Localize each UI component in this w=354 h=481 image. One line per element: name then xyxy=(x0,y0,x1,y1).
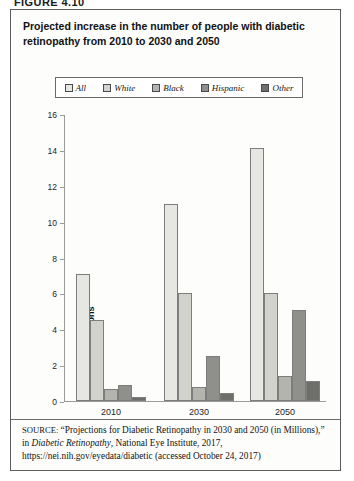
bar-group-2010 xyxy=(76,114,146,401)
y-axis-tick xyxy=(60,115,64,116)
chart-legend: AllWhiteBlackHispanicOther xyxy=(55,77,303,98)
y-axis-tick xyxy=(60,259,64,260)
y-axis-tick xyxy=(60,330,64,331)
bar-all-2050[interactable] xyxy=(250,148,264,401)
legend-item-other[interactable]: Other xyxy=(261,83,293,93)
source-publication-title: Diabetic Retinopathy xyxy=(32,438,111,448)
bar-all-2030[interactable] xyxy=(164,204,178,401)
source-note: SOURCE: “Projections for Diabetic Retino… xyxy=(22,424,329,464)
y-axis-tick-label: 12 xyxy=(48,182,57,192)
legend-item-all[interactable]: All xyxy=(65,83,87,93)
bar-white-2010[interactable] xyxy=(90,320,104,401)
bar-black-2010[interactable] xyxy=(104,389,118,401)
y-axis-tick-label: 14 xyxy=(48,146,57,156)
legend-item-label: Hispanic xyxy=(212,83,245,93)
bar-hispanic-2050[interactable] xyxy=(292,310,306,401)
legend-item-label: All xyxy=(76,83,87,93)
chart-title: Projected increase in the number of peop… xyxy=(23,19,328,48)
y-axis-tick-label: 0 xyxy=(52,397,57,407)
bar-hispanic-2010[interactable] xyxy=(118,385,132,401)
legend-item-label: Other xyxy=(272,83,293,93)
bar-group-2030 xyxy=(164,114,234,401)
y-axis-tick-label: 16 xyxy=(48,110,57,120)
bar-other-2030[interactable] xyxy=(220,393,234,401)
y-axis-tick xyxy=(60,151,64,152)
bar-white-2030[interactable] xyxy=(178,293,192,401)
y-axis-tick xyxy=(60,187,64,188)
x-axis-line xyxy=(64,401,326,402)
x-axis-group-label: 2030 xyxy=(189,407,209,417)
legend-item-hispanic[interactable]: Hispanic xyxy=(201,83,245,93)
y-axis-tick xyxy=(60,402,64,403)
legend-swatch-icon xyxy=(261,84,269,92)
bar-hispanic-2030[interactable] xyxy=(206,356,220,401)
y-axis-tick xyxy=(60,294,64,295)
bar-black-2050[interactable] xyxy=(278,376,292,401)
x-axis-group-label: 2010 xyxy=(101,407,121,417)
legend-swatch-icon xyxy=(201,84,209,92)
source-label: SOURCE: xyxy=(22,425,58,435)
bar-white-2050[interactable] xyxy=(264,293,278,401)
legend-item-label: Black xyxy=(163,83,184,93)
y-axis-tick-label: 8 xyxy=(52,254,57,264)
bar-black-2030[interactable] xyxy=(192,387,206,401)
bar-other-2010[interactable] xyxy=(132,397,146,401)
y-axis-tick-label: 6 xyxy=(52,289,57,299)
y-axis-tick-label: 10 xyxy=(48,218,57,228)
bar-group-2050 xyxy=(250,114,320,401)
legend-item-black[interactable]: Black xyxy=(152,83,184,93)
figure-label: FIGURE 4.10 xyxy=(14,0,84,8)
x-axis-group-label: 2050 xyxy=(275,407,295,417)
y-axis-line xyxy=(64,115,65,402)
legend-swatch-icon xyxy=(152,84,160,92)
legend-item-label: White xyxy=(114,83,135,93)
bar-other-2050[interactable] xyxy=(306,381,320,401)
y-axis-tick-label: 4 xyxy=(52,325,57,335)
source-divider xyxy=(11,419,340,420)
legend-item-white[interactable]: White xyxy=(103,83,135,93)
legend-swatch-icon xyxy=(103,84,111,92)
figure-box: Projected increase in the number of peop… xyxy=(10,9,341,471)
bar-all-2010[interactable] xyxy=(76,274,90,401)
legend-swatch-icon xyxy=(65,84,73,92)
plot-area: In millions 0246810121416201020302050 xyxy=(64,115,326,410)
y-axis-tick-label: 2 xyxy=(52,361,57,371)
y-axis-tick xyxy=(60,223,64,224)
y-axis-tick xyxy=(60,366,64,367)
